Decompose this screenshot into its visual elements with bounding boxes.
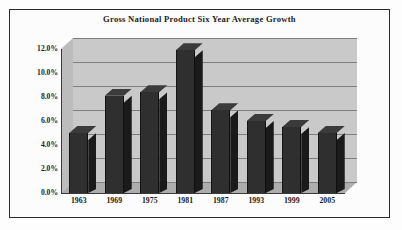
bar-top-face <box>318 126 345 133</box>
x-axis-tick-label: 2005 <box>310 196 346 205</box>
bar-side-face <box>88 133 96 193</box>
bar-top-face <box>140 85 167 92</box>
bar-front-face <box>176 50 195 193</box>
bar-top-face <box>282 120 309 127</box>
x-axis-tick-labels: 19631969197519811987199319992005 <box>61 196 361 212</box>
bar-1993[interactable] <box>247 121 266 193</box>
chart-figure: Gross National Product Six Year Average … <box>0 0 402 230</box>
x-axis-tick-label: 1993 <box>239 196 275 205</box>
bar-series <box>61 38 357 193</box>
x-axis-tick-label: 1987 <box>203 196 239 205</box>
bar-side-face <box>124 96 132 193</box>
x-axis-tick-mark <box>274 193 277 194</box>
bar-side-face <box>230 110 238 193</box>
bar-1987[interactable] <box>211 110 230 193</box>
x-axis-tick-label: 1981 <box>168 196 204 205</box>
bar-1969[interactable] <box>105 96 124 193</box>
x-axis-tick-mark <box>132 193 135 194</box>
bar-1999[interactable] <box>282 127 301 193</box>
bar-top-face <box>105 89 132 96</box>
y-axis-tick-label: 4.0% <box>41 140 58 149</box>
bar-front-face <box>318 133 337 193</box>
bar-top-face <box>247 114 274 121</box>
bar-front-face <box>69 133 88 193</box>
chart-title: Gross National Product Six Year Average … <box>9 14 390 24</box>
bar-front-face <box>140 92 159 193</box>
y-axis-tick-label: 8.0% <box>41 92 58 101</box>
bar-2005[interactable] <box>318 133 337 193</box>
y-axis-tick-labels: 0.0%2.0%4.0%6.0%8.0%10.0%12.0% <box>16 38 58 205</box>
y-axis-tick-label: 12.0% <box>37 44 58 53</box>
bar-1975[interactable] <box>140 92 159 193</box>
x-axis-tick-label: 1999 <box>274 196 310 205</box>
x-axis-tick-mark <box>203 193 206 194</box>
y-axis-tick-label: 6.0% <box>41 116 58 125</box>
x-axis-tick-mark <box>239 193 242 194</box>
bar-1981[interactable] <box>176 50 195 193</box>
bar-side-face <box>159 92 167 193</box>
bar-top-face <box>69 126 96 133</box>
y-axis-tick-label: 0.0% <box>41 188 58 197</box>
bar-side-face <box>301 127 309 193</box>
x-axis-tick-mark <box>97 193 100 194</box>
x-axis-tick-label: 1969 <box>97 196 133 205</box>
bar-side-face <box>195 50 203 193</box>
bar-side-face <box>266 121 274 193</box>
x-axis-tick-mark <box>61 193 64 194</box>
bar-1963[interactable] <box>69 133 88 193</box>
bar-front-face <box>105 96 124 193</box>
plot-area <box>61 38 357 205</box>
y-axis-tick-label: 2.0% <box>41 164 58 173</box>
bar-front-face <box>247 121 266 193</box>
bar-side-face <box>337 133 345 193</box>
x-axis-tick-mark <box>168 193 171 194</box>
bar-front-face <box>211 110 230 193</box>
x-axis-tick-mark <box>310 193 313 194</box>
bar-front-face <box>282 127 301 193</box>
x-axis-tick-label: 1963 <box>61 196 97 205</box>
x-axis-tick-label: 1975 <box>132 196 168 205</box>
bar-top-face <box>211 103 238 110</box>
y-axis-tick-label: 10.0% <box>37 68 58 77</box>
bar-top-face <box>176 43 203 50</box>
